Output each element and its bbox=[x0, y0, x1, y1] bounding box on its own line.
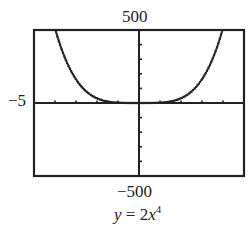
curve-pixel bbox=[74, 76, 76, 78]
curve-pixel bbox=[219, 38, 221, 40]
curve-pixel bbox=[186, 94, 188, 96]
curve-pixel bbox=[76, 80, 78, 82]
curve-pixel bbox=[221, 32, 223, 34]
curve-pixel bbox=[75, 78, 77, 80]
curve-pixel bbox=[206, 70, 208, 72]
curve-pixel bbox=[72, 73, 74, 75]
curve-pixel bbox=[195, 86, 197, 88]
curve-pixel bbox=[65, 59, 67, 61]
curve-pixel bbox=[106, 100, 108, 102]
curve-pixel bbox=[208, 67, 210, 69]
curve-pixel bbox=[212, 57, 214, 59]
curve-pixel bbox=[197, 84, 199, 86]
curve-pixel bbox=[213, 56, 215, 58]
curve-pixel bbox=[220, 35, 222, 37]
curve-pixel bbox=[56, 35, 58, 37]
curve-pixel bbox=[219, 36, 221, 38]
curve-pixel bbox=[176, 99, 178, 101]
graph-window bbox=[0, 0, 249, 233]
curve-pixel bbox=[216, 48, 218, 50]
curve-pixel bbox=[62, 51, 64, 53]
curve-pixel bbox=[68, 65, 70, 67]
curve-pixel bbox=[66, 62, 68, 64]
curve-pixel bbox=[73, 75, 75, 77]
curve-pixel bbox=[211, 59, 213, 61]
curve-pixel bbox=[209, 64, 211, 66]
curve-pixel bbox=[198, 83, 200, 85]
curve-pixel bbox=[200, 80, 202, 82]
curve-pixel bbox=[55, 30, 57, 32]
curve-pixel bbox=[213, 54, 215, 56]
curve-pixel bbox=[62, 52, 64, 54]
curve-pixel bbox=[88, 92, 90, 94]
curve-pixel bbox=[63, 54, 65, 56]
curve-pixel bbox=[217, 44, 219, 46]
curve-pixel bbox=[214, 52, 216, 54]
curve-pixel bbox=[100, 99, 102, 101]
curve-pixel bbox=[138, 102, 140, 104]
curve-pixel bbox=[93, 96, 95, 98]
curve-pixel bbox=[190, 91, 192, 93]
curve-pixel bbox=[57, 38, 59, 40]
curve-pixel bbox=[188, 92, 190, 94]
curve-pixel bbox=[59, 43, 61, 45]
curve-pixel bbox=[194, 88, 196, 90]
curve-pixel bbox=[208, 65, 210, 67]
curve-pixel bbox=[204, 73, 206, 75]
curve-pixel bbox=[192, 89, 194, 91]
curve-pixel bbox=[215, 49, 217, 51]
curve-pixel bbox=[183, 96, 185, 98]
curve-pixel bbox=[61, 49, 63, 51]
curve-pixel bbox=[86, 91, 88, 93]
curve-pixel bbox=[56, 33, 58, 35]
curve-pixel bbox=[55, 32, 57, 34]
curve-pixel bbox=[180, 97, 182, 99]
curve-pixel bbox=[58, 41, 60, 43]
curve-pixel bbox=[71, 72, 73, 74]
curve-pixel bbox=[199, 81, 201, 83]
curve-pixel bbox=[59, 44, 61, 46]
curve-pixel bbox=[207, 68, 209, 70]
curve-pixel bbox=[78, 83, 80, 85]
curve-pixel bbox=[69, 68, 71, 70]
curve-pixel bbox=[203, 75, 205, 77]
curve-pixel bbox=[216, 46, 218, 48]
curve-pixel bbox=[67, 64, 69, 66]
curve-pixel bbox=[170, 100, 172, 102]
curve-pixel bbox=[68, 67, 70, 69]
curve-pixel bbox=[218, 40, 220, 42]
curve-pixel bbox=[81, 86, 83, 88]
curve-pixel bbox=[60, 48, 62, 50]
curve-pixel bbox=[58, 40, 60, 42]
curve-pixel bbox=[211, 60, 213, 62]
curve-pixel bbox=[90, 94, 92, 96]
curve-pixel bbox=[221, 30, 223, 32]
curve-pixel bbox=[210, 62, 212, 64]
curve-pixel bbox=[96, 97, 98, 99]
curve-pixel bbox=[60, 46, 62, 48]
curve-pixel bbox=[82, 88, 84, 90]
curve-pixel bbox=[217, 43, 219, 45]
curve-pixel bbox=[220, 33, 222, 35]
curve-pixel bbox=[205, 72, 207, 74]
curve-pixel bbox=[57, 36, 59, 38]
curve-pixel bbox=[84, 89, 86, 91]
curve-pixel bbox=[65, 60, 67, 62]
curve-pixel bbox=[63, 56, 65, 58]
curve-pixel bbox=[214, 51, 216, 53]
curve-pixel bbox=[77, 81, 79, 83]
curve-pixel bbox=[79, 84, 81, 86]
curve-pixel bbox=[202, 76, 204, 78]
curve-pixel bbox=[64, 57, 66, 59]
curve-pixel bbox=[218, 41, 220, 43]
curve-pixel bbox=[201, 78, 203, 80]
curve-pixel bbox=[70, 70, 72, 72]
